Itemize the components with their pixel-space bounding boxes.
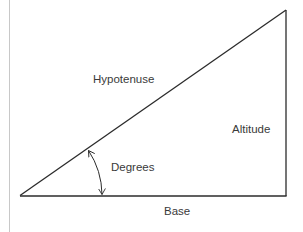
angle-arc-arrow xyxy=(89,151,103,195)
triangle-diagram: Hypotenuse Altitude Degrees Base xyxy=(0,0,303,232)
altitude-label: Altitude xyxy=(232,123,270,135)
hypotenuse-label: Hypotenuse xyxy=(93,73,154,85)
degrees-label: Degrees xyxy=(111,161,155,173)
base-label: Base xyxy=(164,205,190,217)
